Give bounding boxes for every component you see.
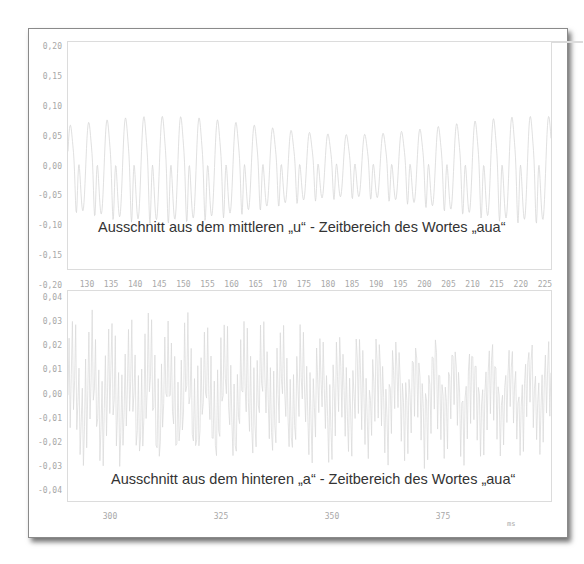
bottom-x-unit: ms [507,520,515,528]
bottom-caption: Ausschnitt aus dem hinteren „a“ - Zeitbe… [111,471,515,487]
y-tick-label: 0,00 [22,390,62,399]
x-tick-label: 325 [206,512,236,521]
y-tick-label: -0,03 [22,462,62,471]
y-tick-label: 0,00 [22,162,62,171]
y-tick-label: 0,10 [22,102,62,111]
x-tick-label: 375 [428,512,458,521]
y-tick-label: 0,04 [22,293,62,302]
y-tick-label: -0,05 [22,191,62,200]
a-visible-plot: Ausschnitt aus dem hinteren „a“ - Zeitbe… [67,290,552,502]
a-waveform-line [68,291,551,501]
u-visible-plot: Ausschnitt aus dem mittleren „u“ - Zeitb… [67,41,552,270]
y-tick-label: -0,20 [22,281,62,290]
y-tick-label: -0,15 [22,251,62,260]
y-tick-label: 0,01 [22,365,62,374]
x-tick-label: 225 [530,280,560,289]
y-tick-label: -0,02 [22,438,62,447]
x-tick-label: 350 [317,512,347,521]
x-tick-label: 300 [95,512,125,521]
y-tick-label: 0,02 [22,341,62,350]
y-tick-label: -0,10 [22,221,62,230]
y-tick-label: 0,15 [22,72,62,81]
y-tick-label: 0,05 [22,132,62,141]
y-tick-label: 0,03 [22,317,62,326]
y-tick-label: -0,04 [22,486,62,495]
y-tick-label: -0,01 [22,414,62,423]
y-tick-label: 0,20 [22,42,62,51]
top-caption: Ausschnitt aus dem mittleren „u“ - Zeitb… [98,219,506,235]
